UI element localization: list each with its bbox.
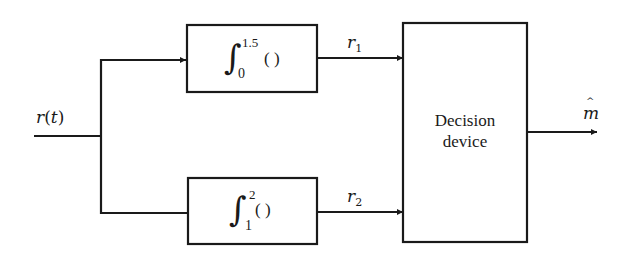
integrator-1-lower-limit: 0 (238, 67, 245, 81)
input-label: r(t) (36, 109, 64, 126)
output-label-var: m (583, 103, 599, 123)
hat-accent-icon: ^ (586, 96, 594, 106)
signal-r1-label: r1 (347, 34, 362, 54)
integrator-1-argument: ( ) (264, 50, 280, 67)
integrator-1-upper-limit: 1.5 (242, 36, 258, 49)
block-diagram-canvas (0, 0, 621, 266)
input-label-arg: t (51, 107, 58, 127)
integrator-2-argument: ( ) (255, 201, 271, 218)
integrator-1-expression: ∫ 1.5 0 ( ) (224, 36, 294, 84)
output-label: m ^ (583, 105, 599, 122)
integrator-2-expression: ∫ 2 1 ( ) (229, 188, 289, 236)
input-label-var: r (36, 107, 44, 127)
decision-device-line1: Decision (403, 110, 527, 131)
signal-r2-label: r2 (347, 188, 362, 208)
integrator-2-lower-limit: 1 (245, 219, 252, 233)
decision-device-label: Decision device (403, 110, 527, 152)
decision-device-line2: device (403, 131, 527, 152)
